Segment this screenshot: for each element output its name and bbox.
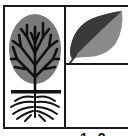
tree-with-roots-icon <box>5 7 64 127</box>
leaf-icon <box>66 7 128 63</box>
empty-cell <box>66 65 128 127</box>
leaf-cell <box>66 7 128 63</box>
tree-cell <box>5 7 64 127</box>
caption-text: 1 2 <box>80 131 108 136</box>
